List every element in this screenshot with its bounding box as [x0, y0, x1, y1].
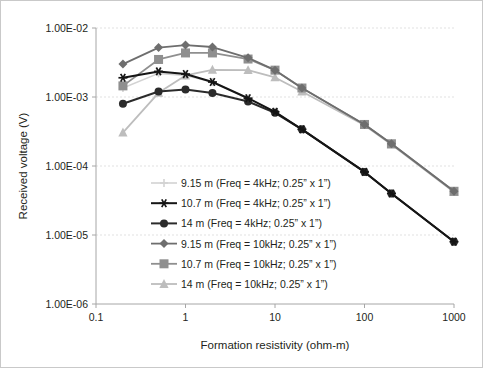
legend-marker: [160, 199, 169, 207]
chart-legend: 9.15 m (Freq = 4kHz; 0.25” x 1”)10.7 m (…: [151, 177, 337, 290]
series-marker: [154, 43, 163, 52]
series-marker: [208, 89, 216, 97]
series-3: [118, 41, 458, 196]
y-axis-title: Received voltage (V): [17, 112, 29, 219]
legend-marker: [160, 219, 168, 227]
y-axis-tick-labels: 1.00E-061.00E-051.00E-041.00E-031.00E-02: [45, 22, 88, 310]
legend-marker: [160, 239, 169, 248]
legend-item: 10.7 m (Freq = 10kHz; 0.25” x 1”): [151, 258, 337, 270]
series-marker: [155, 88, 163, 96]
x-tick-label: 100: [356, 311, 374, 323]
series-marker: [118, 74, 127, 82]
legend-item: 9.15 m (Freq = 4kHz; 0.25” x 1”): [151, 177, 331, 189]
legend-marker: [160, 259, 169, 268]
legend-label: 14 m (Freq = 4kHz; 0.25” x 1”): [181, 217, 322, 229]
series-marker: [119, 100, 127, 108]
legend-label: 14 m (Freq = 10kHz; 0.25” x 1”): [181, 278, 328, 290]
series-marker: [118, 60, 127, 69]
x-tick-label: 10: [269, 311, 281, 323]
series-line: [123, 70, 454, 192]
x-tick-label: 1: [183, 311, 189, 323]
chart-plot-area: 0.11101001000 1.00E-061.00E-051.00E-041.…: [1, 1, 483, 368]
legend-label: 9.15 m (Freq = 4kHz; 0.25” x 1”): [181, 177, 331, 189]
legend-item: 9.15 m (Freq = 10kHz; 0.25” x 1”): [151, 238, 337, 250]
chart-figure: 0.11101001000 1.00E-061.00E-051.00E-041.…: [0, 0, 483, 368]
series-marker: [154, 55, 163, 64]
y-tick-label: 1.00E-02: [45, 22, 88, 34]
x-tick-label: 1000: [442, 311, 466, 323]
data-series-group: [118, 41, 458, 246]
legend-marker: [160, 179, 168, 187]
x-axis-tick-labels: 0.11101001000: [89, 311, 466, 323]
legend-label: 10.7 m (Freq = 4kHz; 0.25” x 1”): [181, 197, 331, 209]
legend-label: 9.15 m (Freq = 10kHz; 0.25” x 1”): [181, 238, 337, 250]
series-marker: [181, 41, 190, 50]
series-line: [123, 45, 454, 191]
x-tick-label: 0.1: [89, 311, 104, 323]
legend-label: 10.7 m (Freq = 10kHz; 0.25” x 1”): [181, 258, 337, 270]
series-marker: [118, 81, 127, 90]
legend-item: 14 m (Freq = 4kHz; 0.25” x 1”): [151, 217, 322, 229]
x-axis-title: Formation resistivity (ohm-m): [201, 339, 350, 351]
series-marker: [182, 86, 190, 94]
y-tick-label: 1.00E-05: [45, 229, 88, 241]
line-chart-svg: 0.11101001000 1.00E-061.00E-051.00E-041.…: [1, 1, 483, 368]
y-tick-label: 1.00E-03: [45, 91, 88, 103]
y-tick-label: 1.00E-06: [45, 298, 88, 310]
legend-item: 10.7 m (Freq = 4kHz; 0.25” x 1”): [151, 197, 331, 209]
legend-item: 14 m (Freq = 10kHz; 0.25” x 1”): [151, 278, 328, 290]
y-tick-label: 1.00E-04: [45, 160, 88, 172]
series-marker: [181, 48, 190, 57]
